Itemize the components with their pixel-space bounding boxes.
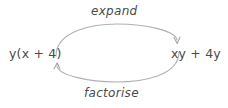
factorise-arrow-arc (57, 52, 179, 82)
arrow-label-factorise: factorise (84, 86, 139, 100)
expression-expanded-form: xy + 4y (171, 46, 221, 61)
arrow-label-expand: expand (91, 4, 137, 18)
expression-factorised-form: y(x + 4) (9, 46, 62, 61)
diagram-canvas: y(x + 4) xy + 4y expand factorise (0, 0, 228, 108)
expand-arrow-arc (56, 24, 177, 56)
